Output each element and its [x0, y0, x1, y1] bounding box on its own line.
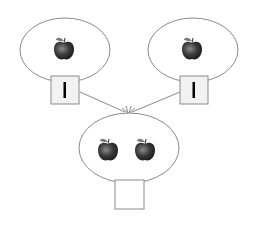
apple-icon [98, 139, 118, 161]
left-part-node [20, 18, 110, 104]
apple-icon [135, 139, 155, 161]
whole-answer-box[interactable] [115, 180, 144, 209]
whole-node [79, 113, 179, 209]
right-part-node [148, 18, 238, 104]
apple-icon [182, 38, 202, 60]
connector-right [132, 92, 180, 112]
number-bond-diagram [0, 0, 254, 227]
connector-left [80, 92, 125, 112]
apple-icon [54, 38, 74, 60]
